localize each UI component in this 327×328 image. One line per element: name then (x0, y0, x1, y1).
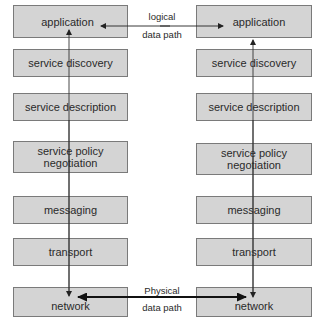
left-service-policy-negotiation-layer: service policy negotiation (13, 141, 128, 173)
layer-label: application (41, 16, 94, 28)
physical-path-line1: Physical (122, 285, 202, 296)
layer-label: messaging (44, 204, 97, 216)
layer-label: service policy (37, 145, 103, 157)
left-service-description-layer: service description (13, 93, 128, 121)
layer-label: service description (25, 101, 116, 113)
logical-path-line1: logical (122, 11, 202, 22)
right-service-policy-negotiation-layer: service policy negotiation (196, 143, 312, 175)
layer-label: transport (232, 246, 275, 258)
left-transport-layer: transport (13, 238, 128, 266)
layer-label: service discovery (28, 57, 112, 69)
layer-label: transport (49, 246, 92, 258)
left-network-layer: network (13, 287, 128, 317)
left-application-layer: application (13, 5, 128, 38)
layer-label: service policy (221, 147, 287, 159)
right-transport-layer: transport (196, 238, 312, 266)
layer-label: negotiation (44, 157, 98, 169)
layer-label: service discovery (212, 57, 296, 69)
layer-label: negotiation (227, 159, 281, 171)
right-messaging-layer: messaging (196, 196, 312, 224)
physical-path-line2: data path (122, 302, 202, 313)
right-network-layer: network (196, 287, 312, 317)
layer-label: messaging (227, 204, 280, 216)
logical-path-line2: data path (122, 29, 202, 40)
layer-label-line1: service policy negotiation (37, 145, 103, 169)
layer-label: application (233, 16, 286, 28)
layer-label: network (51, 300, 90, 312)
right-service-discovery-layer: service discovery (196, 49, 312, 77)
left-messaging-layer: messaging (13, 196, 128, 224)
layer-label: service description (208, 101, 299, 113)
layer-label-block: service policy negotiation (221, 147, 287, 171)
layer-label: network (235, 300, 274, 312)
right-service-description-layer: service description (196, 93, 312, 121)
physical-path-label: Physical data path (122, 285, 202, 313)
left-service-discovery-layer: service discovery (13, 49, 128, 77)
right-application-layer: application (196, 5, 312, 38)
logical-path-label: logical data path (122, 11, 202, 40)
